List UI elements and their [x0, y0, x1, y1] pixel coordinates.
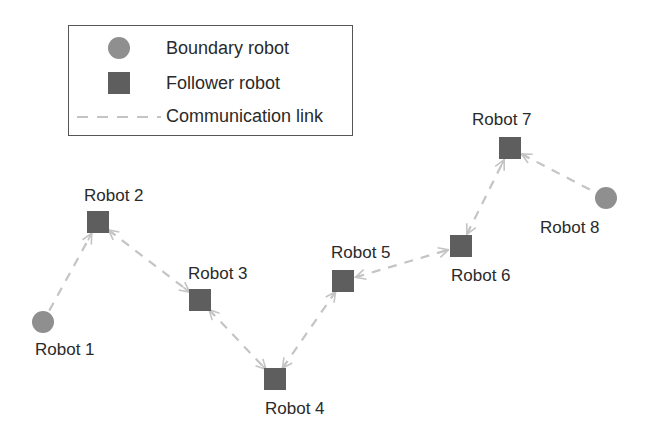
follower-robot-node	[264, 368, 286, 390]
boundary-robot-node	[595, 187, 617, 209]
dashed-line-icon	[69, 101, 165, 131]
legend-label: Follower robot	[166, 68, 280, 98]
communication-link	[522, 154, 595, 192]
boundary-robot-node	[32, 311, 54, 333]
circle-icon	[69, 33, 165, 63]
robot-nodes	[32, 137, 617, 390]
robot-label: Robot 8	[540, 218, 600, 238]
follower-robot-node	[499, 137, 521, 159]
legend-label: Communication link	[166, 101, 323, 131]
robot-label: Robot 5	[331, 243, 391, 263]
communication-link	[49, 233, 91, 310]
communication-link	[108, 230, 189, 292]
robot-label: Robot 6	[451, 266, 511, 286]
communication-link	[282, 292, 335, 369]
follower-robot-node	[332, 270, 354, 292]
robot-label: Robot 3	[188, 264, 248, 284]
robot-label: Robot 2	[84, 186, 144, 206]
robot-label: Robot 7	[472, 110, 532, 130]
legend-label: Boundary robot	[166, 33, 289, 63]
follower-robot-node	[450, 235, 472, 257]
communication-link	[467, 160, 504, 235]
follower-robot-node	[87, 211, 109, 233]
follower-robot-node	[189, 289, 211, 311]
robot-label: Robot 4	[265, 399, 325, 419]
robot-label: Robot 1	[35, 340, 95, 360]
legend: Boundary robot Follower robot Communicat…	[68, 25, 353, 136]
communication-link	[209, 309, 266, 369]
square-icon	[69, 68, 165, 98]
